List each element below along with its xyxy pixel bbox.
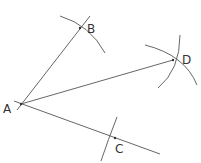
- label-a: A: [3, 102, 12, 116]
- point-d: [172, 59, 174, 61]
- point-b: [79, 27, 81, 29]
- line-ab: [17, 16, 90, 110]
- line-ac: [14, 101, 160, 154]
- point-c: [114, 137, 116, 139]
- arc-b: [60, 16, 105, 53]
- line-ad: [21, 60, 173, 104]
- label-d: D: [182, 53, 191, 67]
- construction-diagram: A B C D: [0, 0, 201, 163]
- label-c: C: [115, 142, 123, 156]
- point-a: [20, 103, 22, 105]
- label-b: B: [87, 22, 95, 36]
